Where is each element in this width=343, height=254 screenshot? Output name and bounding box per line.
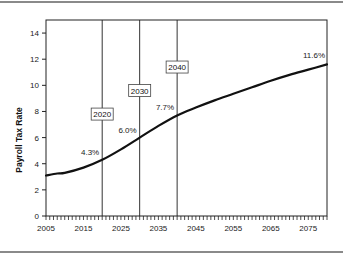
y-axis-label: Payroll Tax Rate xyxy=(14,107,24,173)
x-tick-label: 2065 xyxy=(262,224,280,233)
y-tick-label: 8 xyxy=(35,107,40,116)
y-tick-label: 14 xyxy=(30,29,39,38)
y-tick-label: 2 xyxy=(35,186,40,195)
plot-frame xyxy=(46,20,327,216)
marker-label: 2020 xyxy=(93,110,111,119)
y-axis-label-group: Payroll Tax Rate xyxy=(14,107,24,173)
x-tick-label: 2035 xyxy=(150,224,168,233)
x-tick-label: 2055 xyxy=(224,224,242,233)
x-tick-label: 2025 xyxy=(112,224,130,233)
bottom-rule xyxy=(0,251,343,253)
plot-area-border xyxy=(46,20,327,216)
x-tick-label: 2075 xyxy=(299,224,317,233)
y-axis-ticks: 02468101214 xyxy=(30,29,46,221)
x-tick-label: 2005 xyxy=(37,224,55,233)
value-annotation: 4.3% xyxy=(81,148,99,157)
y-tick-label: 12 xyxy=(30,55,39,64)
x-axis-ticks: 20052015202520352045205520652075 xyxy=(37,216,327,233)
marker-label: 2030 xyxy=(131,87,149,96)
marker-label: 2040 xyxy=(168,63,186,72)
y-tick-label: 10 xyxy=(30,81,39,90)
value-annotation: 7.7% xyxy=(156,103,174,112)
y-tick-label: 6 xyxy=(35,134,40,143)
payroll-tax-line xyxy=(46,64,327,175)
y-tick-label: 0 xyxy=(35,212,40,221)
payroll-tax-chart: Payroll Tax Rate 202020302040 0246810121… xyxy=(0,0,343,254)
x-tick-label: 2015 xyxy=(75,224,93,233)
value-annotation: 6.0% xyxy=(118,126,136,135)
x-tick-label: 2045 xyxy=(187,224,205,233)
value-annotation: 11.6% xyxy=(303,51,325,60)
y-tick-label: 4 xyxy=(35,160,40,169)
